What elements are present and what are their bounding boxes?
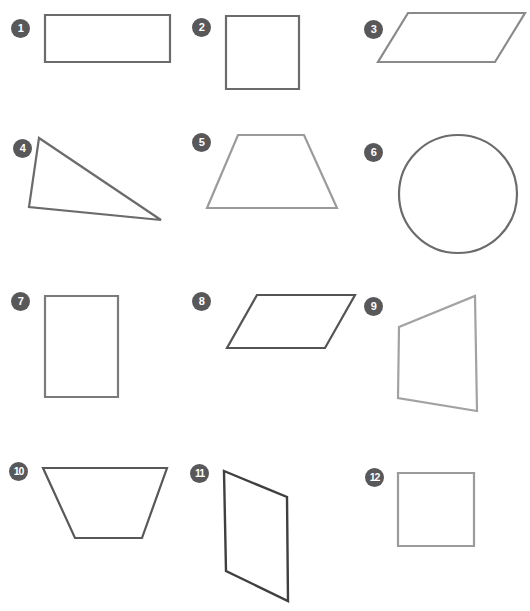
shape-12-square[interactable] xyxy=(398,473,474,546)
shape-11-parallelogram[interactable] xyxy=(224,471,288,601)
shape-number-badge-12: 12 xyxy=(365,468,384,487)
shape-number-badge-7: 7 xyxy=(11,292,30,311)
worksheet-page: 123456789101112 xyxy=(0,0,530,611)
shape-number-badge-10: 10 xyxy=(9,462,28,481)
shape-5-trapezoid[interactable] xyxy=(207,135,337,208)
shape-number-badge-2: 2 xyxy=(192,18,211,37)
shape-8-parallelogram[interactable] xyxy=(227,295,355,348)
shape-number-badge-4: 4 xyxy=(13,139,32,158)
shape-3-parallelogram[interactable] xyxy=(378,13,525,62)
shape-4-triangle[interactable] xyxy=(29,138,161,220)
shape-1-rectangle[interactable] xyxy=(45,15,170,62)
shape-number-badge-3: 3 xyxy=(364,20,383,39)
shape-canvas xyxy=(0,0,530,611)
shape-2-square[interactable] xyxy=(226,16,299,89)
shape-9-trapezoid[interactable] xyxy=(398,296,477,411)
shape-7-rectangle[interactable] xyxy=(45,296,118,397)
shape-number-badge-8: 8 xyxy=(192,292,211,311)
shape-number-badge-6: 6 xyxy=(364,143,383,162)
shape-number-badge-5: 5 xyxy=(192,133,211,152)
shape-number-badge-1: 1 xyxy=(11,19,30,38)
shape-number-badge-9: 9 xyxy=(364,297,383,316)
shape-10-trapezoid[interactable] xyxy=(43,468,167,538)
shape-number-badge-11: 11 xyxy=(190,464,209,483)
shape-6-circle[interactable] xyxy=(399,135,517,253)
